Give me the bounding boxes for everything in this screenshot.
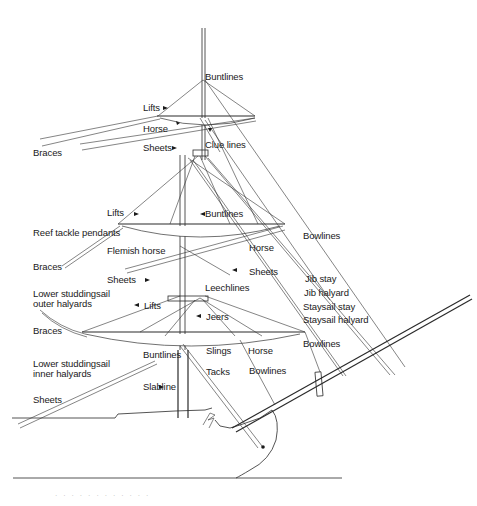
label-sheets-top: Sheets	[143, 143, 172, 153]
label-jib-halyard: Jib halyard	[304, 288, 349, 298]
rigging-diagram: Buntlines Lifts Horse Braces Sheets Clue…	[0, 0, 477, 506]
label-horse-top: Horse	[143, 124, 168, 134]
lift-line	[118, 156, 198, 224]
label-flemish-horse: Flemish horse	[107, 246, 165, 256]
figurehead	[203, 413, 215, 428]
lift-line	[158, 80, 203, 116]
tack-block	[261, 445, 265, 449]
label-buntlines-lower: Buntlines	[143, 350, 181, 360]
label-leechlines: Leechlines	[205, 283, 249, 293]
label-tacks: Tacks	[206, 367, 230, 377]
label-slings: Slings	[206, 346, 231, 356]
label-jeers: Jeers	[206, 312, 229, 322]
label-slabline: Slabline	[143, 382, 176, 392]
label-bowlines-lower: Bowlines	[249, 366, 286, 376]
arrow	[145, 278, 150, 282]
label-braces-top: Braces	[33, 148, 62, 158]
topsail-sail	[122, 226, 280, 237]
arrow	[196, 314, 201, 318]
arrow	[163, 106, 168, 110]
label-clue-lines: Clue lines	[205, 140, 246, 150]
sheet-line	[180, 246, 230, 275]
label-lifts-lower: Lifts	[144, 301, 161, 311]
label-lower-studdingsail-inner: Lower studdingsail inner halyards	[33, 359, 110, 379]
label-lower-studdingsail-outer: Lower studdingsail outer halyards	[33, 289, 110, 309]
arrow	[208, 128, 212, 132]
lift-line	[203, 80, 255, 116]
arrow	[134, 303, 139, 307]
label-staysail-stay: Staysail stay	[303, 302, 355, 312]
label-bowlines-upper: Bowlines	[303, 231, 340, 241]
label-lifts-mid: Lifts	[107, 208, 124, 218]
label-sheets-mid-right: Sheets	[249, 267, 278, 277]
tack-line	[180, 346, 258, 448]
arrow	[134, 212, 139, 216]
label-buntlines-mid: Buntlines	[205, 209, 243, 219]
label-bowlines-mid: Bowlines	[303, 339, 340, 349]
label-reef-tackle-pendants: Reef tackle pendants	[33, 228, 120, 238]
label-sheets-mid-left: Sheets	[107, 275, 136, 285]
buntline	[170, 156, 195, 224]
label-lifts-top: Lifts	[143, 103, 160, 113]
faint-caption: · · · · · · · · · · · ·	[55, 492, 150, 499]
brace-line	[40, 116, 158, 139]
label-horse-mid: Horse	[249, 243, 274, 253]
label-braces-lower: Braces	[33, 326, 62, 336]
crosstrees	[193, 150, 208, 156]
arrow	[172, 146, 177, 150]
label-braces-mid: Braces	[33, 262, 62, 272]
label-sheets-lower: Sheets	[33, 395, 62, 405]
arrow	[232, 268, 237, 272]
label-jib-stay: Jib stay	[305, 274, 336, 284]
label-buntlines-top: Buntlines	[205, 72, 243, 82]
bowsprit-cap	[315, 372, 323, 396]
label-horse-lower: Horse	[248, 346, 273, 356]
label-staysail-halyard: Staysail halyard	[303, 315, 368, 325]
